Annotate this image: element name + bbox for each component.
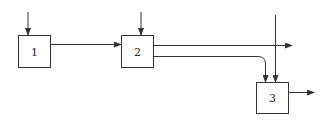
block-3-label: 3 xyxy=(269,92,276,105)
block-2-label: 2 xyxy=(134,46,141,59)
block-3: 3 xyxy=(257,83,289,114)
block-diagram: 1 2 3 xyxy=(0,0,331,120)
block-2: 2 xyxy=(122,36,154,68)
arrow-2-to-3 xyxy=(154,57,266,83)
block-1-label: 1 xyxy=(31,46,38,59)
block-1: 1 xyxy=(19,36,51,68)
